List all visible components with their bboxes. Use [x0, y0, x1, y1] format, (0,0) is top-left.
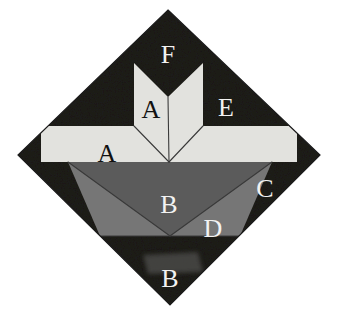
label-b-bottom: B — [161, 264, 178, 293]
figure-canvas: FAEABCDB — [0, 0, 337, 321]
label-b-mid: B — [160, 190, 177, 219]
label-e: E — [218, 93, 234, 122]
label-a-upper: A — [142, 95, 161, 124]
dissection-diagram: FAEABCDB — [0, 0, 337, 321]
label-d: D — [204, 214, 223, 243]
label-a-band: A — [98, 139, 117, 168]
label-f: F — [161, 40, 175, 69]
label-c: C — [256, 174, 273, 203]
